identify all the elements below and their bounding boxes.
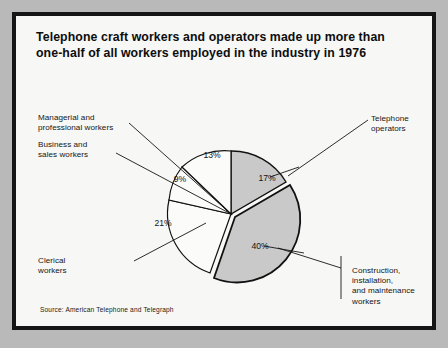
value-label-construction: 40% [251, 241, 269, 251]
callout-business: Business and sales workers [38, 140, 88, 160]
callout-managerial: Managerial and professional workers [38, 113, 113, 133]
value-label-managerial: 13% [203, 150, 221, 160]
source-note: Source: American Telephone and Telegraph [40, 306, 174, 313]
value-label-clerical: 21% [154, 218, 172, 228]
figure-page: Telephone craft workers and operators ma… [0, 0, 448, 348]
callout-construction: Construction, installation, and maintena… [352, 266, 415, 307]
callout-telephone-operators: Telephone operators [371, 114, 409, 134]
leader-line-operators [288, 120, 368, 176]
figure-frame: Telephone craft workers and operators ma… [12, 12, 436, 330]
value-label-business: 9% [174, 174, 187, 184]
value-label-operators: 17% [258, 173, 276, 183]
callout-clerical: Clerical workers [38, 256, 67, 276]
